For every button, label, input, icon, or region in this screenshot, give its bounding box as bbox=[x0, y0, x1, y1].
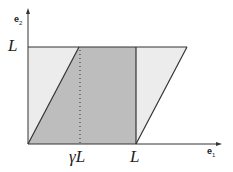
shear-diagram bbox=[0, 0, 233, 172]
x-axis-arrow-icon bbox=[216, 142, 222, 146]
x-tick-gamma-L: γL bbox=[69, 147, 85, 167]
y-tick-L: L bbox=[8, 36, 17, 56]
x-tick-L: L bbox=[130, 147, 139, 167]
y-axis-label: e2 bbox=[14, 14, 22, 26]
y-axis-arrow-icon bbox=[26, 8, 30, 14]
x-axis-label: e1 bbox=[207, 146, 215, 158]
